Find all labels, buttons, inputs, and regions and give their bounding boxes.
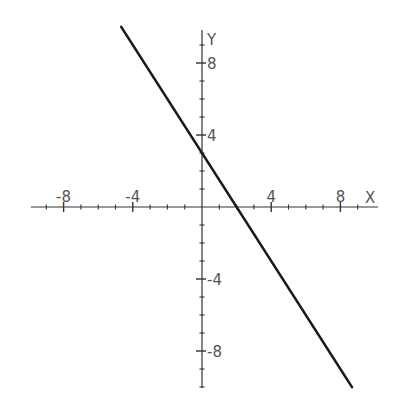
- y-tick-label: 8: [207, 55, 217, 73]
- y-axis-label: Y: [206, 31, 217, 49]
- y-tick-label: -4: [207, 271, 222, 289]
- axes: [31, 30, 378, 388]
- x-tick-label: -4: [125, 188, 140, 206]
- line-graph: -8-44884-4-8 X Y: [0, 0, 405, 409]
- x-tick-label: -8: [56, 188, 71, 206]
- x-axis-label: X: [365, 189, 375, 207]
- y-tick-label: -8: [207, 343, 222, 361]
- x-tick-label: 8: [336, 188, 346, 206]
- x-tick-label: 4: [266, 188, 276, 206]
- y-tick-label: 4: [207, 127, 217, 145]
